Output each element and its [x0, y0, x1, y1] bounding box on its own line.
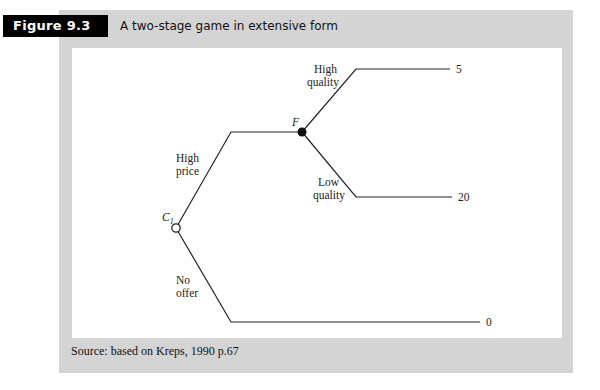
payoff-high-quality: 5: [456, 63, 462, 75]
branch-high-price: [176, 132, 302, 228]
node-c1-label: C1: [162, 211, 174, 226]
payoff-low-quality: 20: [458, 191, 470, 203]
node-f: [298, 128, 307, 137]
branch-no-offer: [176, 228, 480, 322]
label-no-offer-2: offer: [176, 287, 198, 299]
label-high-price-1: High: [176, 152, 199, 165]
payoff-no-offer: 0: [486, 316, 492, 328]
node-f-label: F: [291, 116, 300, 128]
label-high-quality-2: quality: [307, 76, 339, 89]
label-high-quality-1: High: [314, 63, 337, 76]
label-low-quality-2: quality: [313, 189, 345, 202]
source-note: Source: based on Kreps, 1990 p.67: [71, 344, 239, 359]
label-low-quality-1: Low: [318, 176, 340, 188]
game-tree: C1 F High price No offer High quality Lo…: [0, 0, 600, 390]
label-no-offer-1: No: [176, 274, 190, 286]
label-high-price-2: price: [176, 165, 199, 178]
